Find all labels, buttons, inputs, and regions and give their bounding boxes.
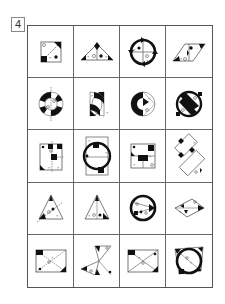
- rectangle-dashed-diagonals-figure: ×: [34, 247, 68, 275]
- ring-cross-figure: × ×: [126, 35, 160, 69]
- svg-text:×: ×: [148, 96, 151, 101]
- figure-cell-r5c3[interactable]: ×: [120, 235, 166, 287]
- crossed-triangles-figure: [77, 243, 117, 279]
- rectangle-diagonals-figure: ×: [126, 247, 160, 275]
- square-diagonal-figure: ×: [39, 40, 63, 64]
- triangle-inner-figure: ×: [81, 192, 113, 224]
- figure-grid: × × × × ×: [27, 25, 213, 288]
- half-discs-figure: × ×: [80, 88, 114, 120]
- svg-text:×: ×: [56, 213, 59, 218]
- figure-cell-r4c3[interactable]: [120, 183, 166, 235]
- figure-cell-r1c4[interactable]: ×: [166, 26, 212, 78]
- figure-cell-r3c4[interactable]: ×: [166, 130, 212, 182]
- svg-text:×: ×: [91, 93, 94, 98]
- figure-cell-r1c1[interactable]: ×: [28, 26, 74, 78]
- figure-cell-r1c2[interactable]: × ×: [74, 26, 120, 78]
- svg-text:×: ×: [57, 165, 60, 170]
- svg-text:×: ×: [87, 54, 90, 59]
- ring-arrow-figure: [127, 192, 159, 224]
- svg-text:×: ×: [51, 255, 54, 260]
- svg-text:×: ×: [88, 138, 91, 143]
- question-number: 4: [11, 17, 25, 32]
- segmented-ring-figure: [35, 86, 67, 122]
- figure-cell-r2c2[interactable]: × ×: [74, 78, 120, 130]
- tilted-rectangles-figure: ×: [172, 133, 206, 179]
- figure-cell-r5c4[interactable]: ×: [166, 235, 212, 287]
- figure-cell-r3c1[interactable]: × ×: [28, 130, 74, 182]
- segmented-disc-figure: ×: [128, 89, 158, 119]
- ring-s-band-figure: [173, 88, 205, 120]
- figure-cell-r4c4[interactable]: ×: [166, 183, 212, 235]
- figure-cell-r4c2[interactable]: ×: [74, 183, 120, 235]
- figure-cell-r5c1[interactable]: ×: [28, 235, 74, 287]
- svg-text:×: ×: [49, 55, 52, 60]
- figure-cell-r3c3[interactable]: × ×: [120, 130, 166, 182]
- ring-rectangle-figure: × ×: [80, 135, 114, 177]
- svg-text:×: ×: [133, 162, 136, 167]
- figure-cell-r4c1[interactable]: ×: [28, 183, 74, 235]
- figure-cell-r5c2[interactable]: [74, 235, 120, 287]
- rectangle-axis-figure: × ×: [36, 139, 66, 173]
- figure-cell-r2c3[interactable]: ×: [120, 78, 166, 130]
- ring-square-figure: ×: [171, 244, 207, 278]
- svg-text:×: ×: [106, 110, 109, 115]
- parallelogram-figure: ×: [171, 40, 207, 64]
- svg-text:×: ×: [88, 213, 91, 218]
- svg-text:×: ×: [105, 150, 108, 155]
- svg-text:×: ×: [133, 47, 136, 52]
- triangle-dashed-figure: ×: [35, 192, 67, 224]
- svg-text:×: ×: [48, 165, 51, 170]
- svg-text:×: ×: [180, 56, 183, 61]
- svg-text:×: ×: [149, 154, 152, 159]
- figure-cell-r1c3[interactable]: × ×: [120, 26, 166, 78]
- triangle-figure: × ×: [79, 40, 115, 64]
- rectangle-blocks-figure: × ×: [128, 141, 158, 171]
- figure-cell-r3c2[interactable]: × ×: [74, 130, 120, 182]
- rhombus-arrow-figure: ×: [172, 196, 206, 220]
- svg-text:×: ×: [190, 260, 193, 265]
- figure-cell-r2c1[interactable]: [28, 78, 74, 130]
- figure-cell-r2c4[interactable]: [166, 78, 212, 130]
